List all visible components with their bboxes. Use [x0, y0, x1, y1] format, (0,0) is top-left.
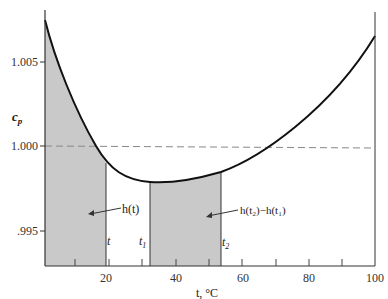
label-t2: t2 — [222, 235, 229, 251]
xtick-label-80: 80 — [303, 271, 315, 285]
xticks — [75, 259, 342, 266]
ytick-label-1005: 1.005 — [11, 55, 38, 69]
y-axis-label: cp — [12, 109, 23, 126]
label-t1: t1 — [139, 234, 146, 250]
annotation-h-t: h(t) — [122, 202, 139, 216]
ytick-label-1000: 1.000 — [11, 139, 38, 153]
xtick-label-40: 40 — [170, 271, 182, 285]
ytick-label-995: .995 — [17, 224, 38, 238]
annotation-h-diff: h(t₂)−h(t₁) — [240, 204, 286, 217]
x-axis-label: t, °C — [196, 286, 218, 299]
label-t: t — [107, 234, 111, 248]
xtick-label-20: 20 — [100, 271, 112, 285]
shaded-region-h-t — [45, 20, 106, 266]
xtick-label-100: 100 — [366, 271, 384, 285]
shaded-region-h-diff — [150, 172, 221, 266]
xtick-label-60: 60 — [237, 271, 249, 285]
cp-chart: 1.005 1.000 .995 20 40 60 80 100 t, °C c… — [0, 0, 388, 299]
